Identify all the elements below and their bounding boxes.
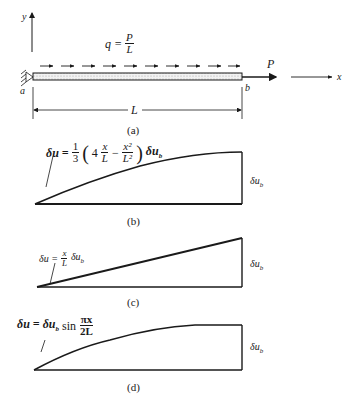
caption-c: (c)	[127, 297, 139, 308]
load-label: q = P L	[105, 32, 134, 55]
term1-den: L	[101, 153, 109, 164]
end-b-label: b	[245, 83, 250, 93]
paren-close: )	[136, 143, 143, 163]
formula-b: δu = 1 3 ( 4 x L − x² L² ) δub	[46, 141, 162, 164]
paren-open: (	[82, 143, 89, 163]
end-value-label-c: δub	[250, 259, 263, 272]
tail-c-text: δu	[71, 251, 81, 262]
leader-d	[41, 340, 45, 352]
formula-c-lhs: δu =	[39, 254, 58, 264]
tail-sub: b	[159, 152, 163, 160]
term2: x² L²	[122, 141, 133, 164]
length-label: L	[131, 104, 138, 116]
formula-d-lhs: δu = δub	[17, 318, 59, 333]
formula-b-coef: 1 3	[72, 141, 80, 164]
end-c-text: δu	[250, 258, 260, 269]
term1: x L	[101, 141, 109, 164]
coef-den: 3	[72, 153, 80, 164]
load-den: L	[125, 44, 133, 55]
formula-c-frac: x L	[61, 249, 68, 268]
formula-c: δu = x L δub	[39, 249, 84, 268]
frac-d-den: 2L	[79, 326, 94, 337]
end-d-text: δu	[250, 341, 260, 352]
end-b-sub: b	[260, 181, 264, 189]
force-p-label: P	[267, 58, 274, 70]
lhs-d-sub: b	[55, 325, 59, 333]
diagram-graphics	[0, 0, 359, 404]
load-label-lhs: q =	[105, 38, 122, 50]
end-value-label-d: δub	[250, 342, 263, 355]
end-c-sub: b	[260, 264, 264, 272]
coef-four: 4	[92, 147, 98, 159]
formula-b-lhs: δu =	[46, 147, 69, 159]
bar	[33, 73, 242, 80]
load-fraction: P L	[125, 32, 134, 55]
term2-den: L²	[122, 153, 133, 164]
y-axis-label: y	[22, 12, 26, 22]
sin-label: sin	[62, 320, 76, 332]
end-a-label: a	[20, 86, 25, 96]
end-d-sub: b	[260, 347, 264, 355]
end-b-text: δu	[250, 175, 260, 186]
end-value-label-b: δub	[250, 176, 263, 189]
formula-d: δu = δub sin πx 2L	[17, 314, 94, 337]
tail-text: δu	[146, 144, 159, 158]
pin-support-icon	[21, 70, 33, 86]
minus-sign: −	[112, 147, 119, 159]
x-axis-label: x	[337, 72, 341, 82]
caption-d: (d)	[127, 382, 140, 393]
formula-c-tail: δub	[71, 252, 84, 265]
formula-d-frac: πx 2L	[79, 314, 94, 337]
lhs-d-text: δu = δu	[17, 317, 55, 331]
formula-b-tail: δub	[146, 145, 162, 160]
caption-b: (b)	[127, 216, 140, 227]
caption-a: (a)	[127, 125, 139, 136]
tail-c-sub: b	[81, 257, 85, 265]
frac-c-den: L	[61, 259, 68, 268]
panel-a-graphics	[21, 13, 332, 119]
